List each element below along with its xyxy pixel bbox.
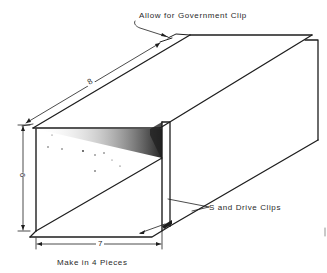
duct-diagram <box>0 0 327 273</box>
make-pieces-label: Make in 4 Pieces <box>57 258 128 267</box>
right-panel-top <box>305 40 318 140</box>
dim-8-arrow-lower <box>26 118 31 123</box>
top-panel-left-edge <box>33 35 190 128</box>
dim-6-arrow-bottom <box>21 225 25 230</box>
clip-arrowhead <box>139 230 145 234</box>
right-panel-front-edge <box>162 122 170 226</box>
dimension-6 <box>18 125 30 231</box>
bottom-panel-front-left <box>30 231 36 237</box>
interior-shading <box>36 129 162 158</box>
s-drive-clips-label: S and Drive Clips <box>209 203 281 212</box>
dimension-6-label: 6 <box>17 173 27 177</box>
gov-clip-arrowhead <box>161 33 168 37</box>
dim-7-arrow-left <box>37 242 42 246</box>
government-clip-label: Allow for Government Clip <box>139 11 247 20</box>
right-panel-bottom-edge <box>170 140 318 226</box>
s-drive-clip-leaders <box>140 199 209 233</box>
dim-8-arrow-upper <box>155 43 160 48</box>
dim-6-arrow-top <box>21 126 25 131</box>
dim-7-arrow-right <box>156 242 161 246</box>
gov-clip-tab <box>160 38 172 42</box>
dimension-7-label: 7 <box>96 240 104 248</box>
interior-diagonal <box>36 158 162 231</box>
bottom-panel <box>30 226 170 237</box>
top-panel-right-edge <box>160 35 312 128</box>
